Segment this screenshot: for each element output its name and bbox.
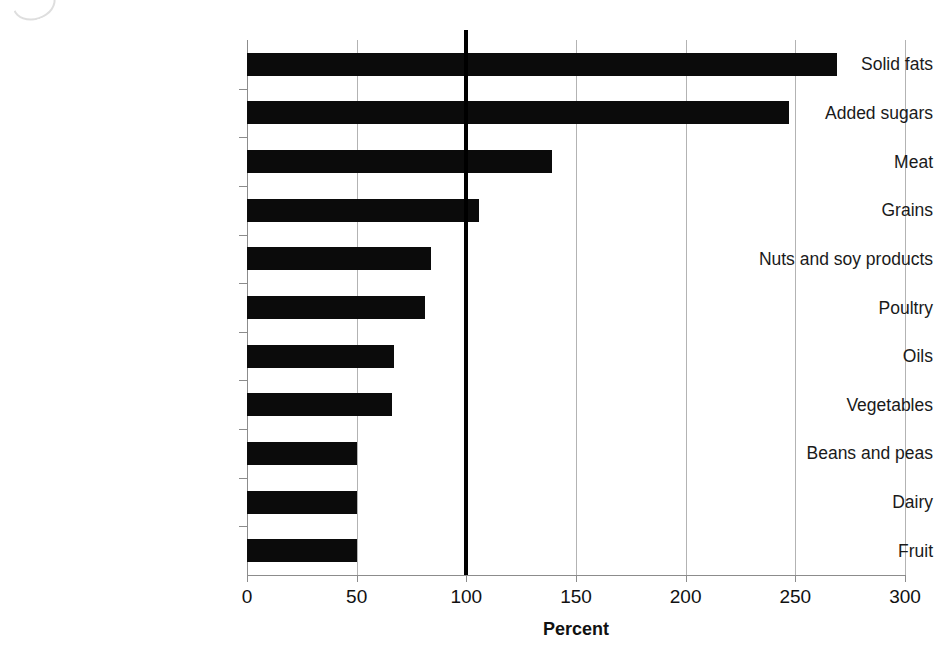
- x-axis-tick: [576, 575, 577, 582]
- category-tick: [239, 429, 247, 430]
- x-axis-title: Percent: [247, 619, 905, 640]
- bar: [247, 491, 357, 514]
- category-tick: [239, 137, 247, 138]
- bar: [247, 150, 552, 173]
- category-tick: [239, 235, 247, 236]
- category-tick: [239, 380, 247, 381]
- category-tick: [239, 89, 247, 90]
- bar: [247, 442, 357, 465]
- category-label: Grains: [711, 199, 943, 221]
- bar: [247, 539, 357, 562]
- category-label: Nuts and soy products: [711, 248, 943, 270]
- category-label: Meat: [711, 151, 943, 173]
- category-label: Dairy: [711, 491, 943, 513]
- category-tick: [239, 332, 247, 333]
- category-label: Poultry: [711, 297, 943, 319]
- x-axis-tick-label: 250: [779, 586, 811, 608]
- x-axis-tick-label: 150: [560, 586, 592, 608]
- x-axis-tick: [686, 575, 687, 582]
- category-tick: [239, 186, 247, 187]
- x-axis-tick-label: 200: [670, 586, 702, 608]
- x-axis-tick: [466, 575, 467, 582]
- reference-line-100: [464, 30, 468, 575]
- x-axis-tick-label: 50: [346, 586, 367, 608]
- category-tick: [239, 283, 247, 284]
- category-label: Fruit: [711, 540, 943, 562]
- bar: [247, 296, 425, 319]
- x-axis-tick: [795, 575, 796, 582]
- bar: [247, 53, 837, 76]
- bar: [247, 247, 431, 270]
- category-tick: [239, 526, 247, 527]
- x-axis-tick: [247, 575, 248, 582]
- x-axis-tick-label: 300: [889, 586, 921, 608]
- bar: [247, 393, 392, 416]
- x-axis-tick: [357, 575, 358, 582]
- bar: [247, 101, 789, 124]
- category-tick: [239, 478, 247, 479]
- category-label: Oils: [711, 345, 943, 367]
- x-axis-tick-label: 0: [242, 586, 253, 608]
- bar-chart: Percent Solid fatsAdded sugarsMeatGrains…: [0, 0, 943, 668]
- category-label: Beans and peas: [711, 442, 943, 464]
- bar: [247, 199, 479, 222]
- x-axis-tick-label: 100: [450, 586, 482, 608]
- bar: [247, 345, 394, 368]
- x-axis-tick: [905, 575, 906, 582]
- category-label: Vegetables: [711, 394, 943, 416]
